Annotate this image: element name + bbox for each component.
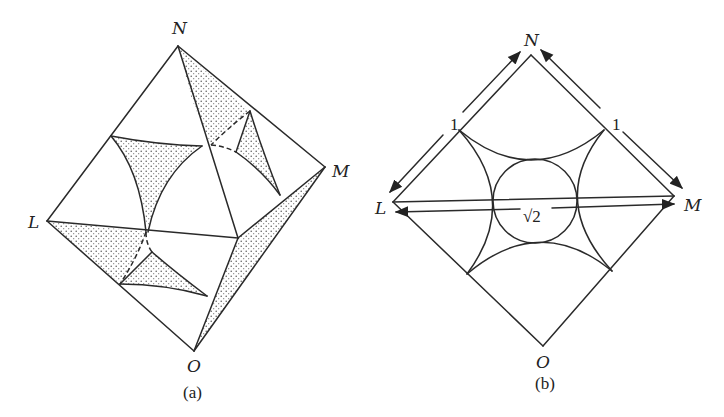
figure-b: 1 1 √2 N M L O (b): [374, 30, 702, 393]
edge-M-O: [194, 167, 325, 351]
dimension-arrow-LN-lower: [390, 135, 443, 192]
arc-centered-N: [459, 130, 604, 160]
dimension-arrow-LN-upper: [463, 52, 520, 112]
dimension-arrow-LM-left: [396, 209, 520, 212]
caption-a: (a): [183, 383, 202, 402]
dashed-arc-lower-1: [146, 232, 152, 252]
shaded-regions-a: [47, 46, 325, 351]
figure-a: N M L O (a): [27, 18, 350, 402]
vertex-label-L-b: L: [374, 198, 386, 218]
arc-centered-M: [577, 130, 612, 271]
vertex-label-M-b: M: [683, 195, 702, 215]
dimension-label-LM: √2: [523, 207, 541, 226]
caption-b: (b): [535, 374, 555, 393]
dashed-arc-upper-2: [211, 145, 236, 152]
dimension-label-LN: 1: [450, 115, 459, 134]
inscribed-circle: [493, 159, 577, 243]
dimension-arrow-NM-upper: [541, 50, 600, 108]
dimension-arrow-LM-right: [552, 204, 674, 208]
vertex-label-N-b: N: [523, 30, 540, 50]
edge-M-O-b: [543, 196, 674, 346]
figure-canvas: N M L O (a) 1 1 √2 N M L O: [0, 0, 724, 417]
arc-centered-L: [459, 130, 493, 274]
vertex-label-L-a: L: [27, 212, 39, 232]
vertex-label-O-b: O: [536, 352, 550, 372]
dimension-label-NM: 1: [612, 115, 621, 134]
arc-centered-O: [467, 242, 612, 274]
diagonal-L-M: [393, 196, 674, 202]
shaded-region-upper-left: [111, 136, 202, 232]
dimension-arrow-NM-lower: [623, 132, 682, 188]
edge-N-M-b: [531, 55, 674, 196]
vertex-label-M-a: M: [331, 161, 350, 181]
vertex-label-O-a: O: [187, 356, 201, 376]
edge-L-N-b: [393, 55, 531, 202]
vertex-label-N-a: N: [171, 18, 188, 38]
